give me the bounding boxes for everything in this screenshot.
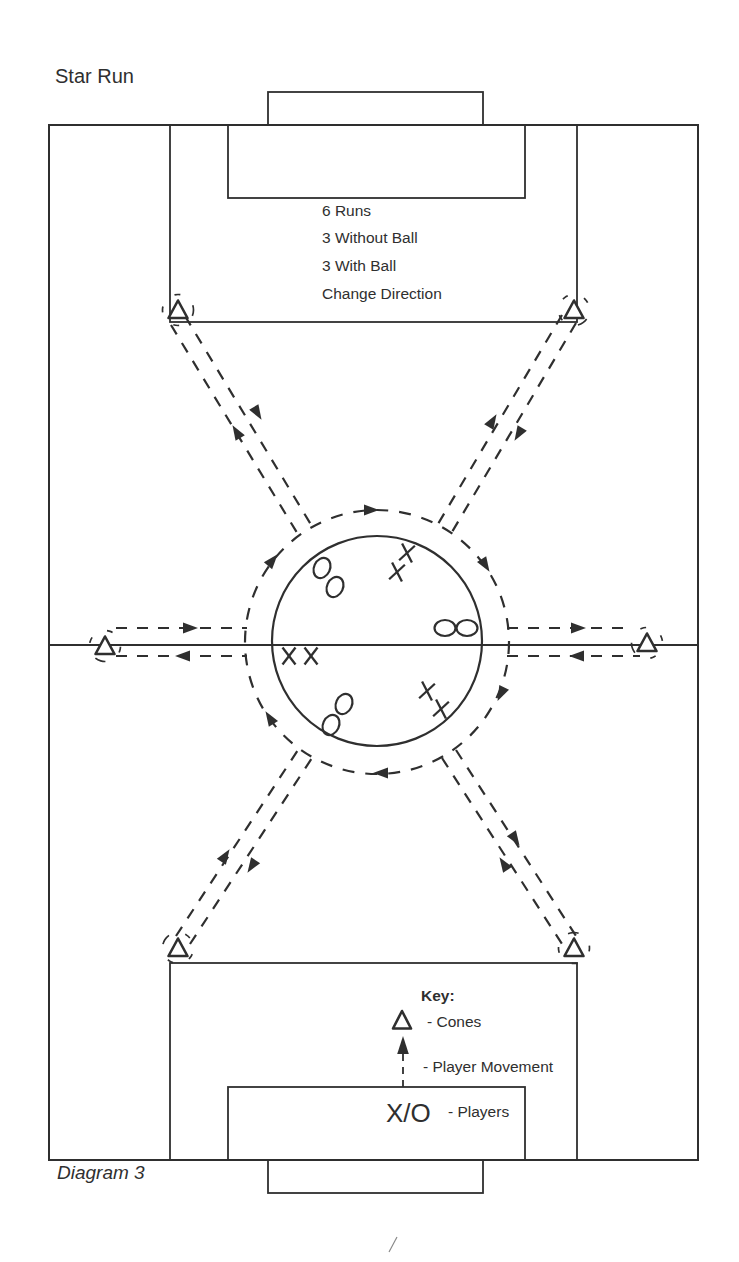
player-movement-icon: [397, 1036, 409, 1090]
cone-icon: [393, 1011, 411, 1029]
player-x-marker: [419, 682, 435, 701]
instruction-line: 6 Runs: [322, 202, 371, 219]
run-direction-arrow: [495, 854, 512, 872]
run-direction-arrow: [510, 425, 527, 443]
legend-movement-label: - Player Movement: [423, 1058, 554, 1075]
instruction-line: 3 With Ball: [322, 257, 396, 274]
run-path: [452, 323, 576, 532]
star-run-diagram: Star Run 6 Runs 3 Without Ball 3 With Ba…: [0, 0, 739, 1262]
run-path: [185, 316, 313, 528]
instructions-block: 6 Runs 3 Without Ball 3 With Ball Change…: [322, 202, 442, 302]
scan-artifact-mark: [389, 1237, 397, 1252]
ring-direction-arrow: [364, 505, 379, 516]
ring-direction-arrow: [493, 685, 509, 703]
player-o-marker: [319, 712, 342, 738]
bottom-goal: [268, 1160, 483, 1193]
legend-players-symbol: X/O: [386, 1098, 431, 1128]
legend-cones-label: - Cones: [427, 1013, 482, 1030]
cone-marker: [169, 939, 188, 957]
ring-direction-arrow: [373, 768, 388, 779]
player-x-stroke: [433, 700, 449, 719]
player-x-stroke: [389, 563, 405, 582]
player-x-marker: [389, 563, 405, 582]
center-circle: [272, 536, 482, 746]
run-ring-path: [245, 510, 509, 774]
top-six-yard-box: [228, 125, 525, 198]
run-direction-arrow: [228, 422, 245, 440]
cone-marker: [169, 301, 188, 319]
player-o-marker: [332, 691, 355, 717]
player-x-stroke: [399, 544, 415, 563]
run-direction-arrow: [175, 651, 190, 662]
cone-marker: [565, 939, 584, 957]
top-goal: [268, 92, 483, 125]
player-x-marker: [283, 648, 296, 665]
scanned-drill-page: Star Run 6 Runs 3 Without Ball 3 With Ba…: [0, 0, 739, 1262]
page-title: Star Run: [55, 65, 134, 87]
run-direction-arrow: [249, 404, 266, 422]
player-o-marker: [435, 620, 456, 636]
cone-marker: [565, 301, 584, 319]
run-direction-arrow: [243, 857, 260, 875]
player-x-marker: [399, 544, 415, 563]
player-o-marker: [323, 574, 346, 600]
diagram-caption: Diagram 3: [57, 1162, 145, 1183]
run-path: [176, 750, 298, 936]
run-path: [190, 758, 312, 944]
legend: Key: - Cones - Player Movement X/O - Pla…: [386, 987, 554, 1128]
run-direction-arrow: [484, 411, 501, 429]
legend-heading: Key:: [421, 987, 455, 1004]
player-x-marker: [305, 648, 318, 665]
run-direction-arrow: [569, 651, 584, 662]
cone-marker: [638, 634, 657, 652]
player-o-marker: [457, 620, 478, 636]
instruction-line: Change Direction: [322, 285, 442, 302]
run-direction-arrow: [183, 623, 198, 634]
run-path: [438, 315, 562, 524]
run-direction-arrow: [217, 846, 234, 864]
legend-players-label: - Players: [448, 1103, 509, 1120]
player-o-marker: [310, 555, 333, 581]
pitch-outline: [49, 125, 698, 1160]
ring-direction-arrow: [261, 708, 278, 726]
instruction-line: 3 Without Ball: [322, 229, 418, 246]
player-x-stroke: [419, 682, 435, 701]
run-path: [442, 758, 562, 944]
run-direction-arrow: [507, 830, 524, 848]
run-direction-arrow: [571, 623, 586, 634]
player-x-marker: [433, 700, 449, 719]
bottom-six-yard-box: [228, 1087, 525, 1160]
